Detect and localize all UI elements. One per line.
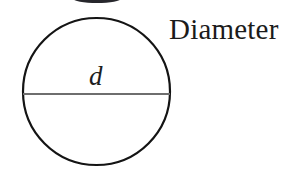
circle-outline bbox=[23, 18, 170, 165]
diameter-symbol-label: d bbox=[89, 62, 103, 90]
diameter-text-label: Diameter bbox=[169, 12, 279, 46]
diagram-canvas: d Diameter bbox=[0, 0, 300, 169]
